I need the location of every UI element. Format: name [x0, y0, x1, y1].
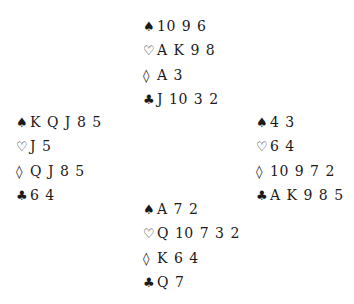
heart-icon: ♡ — [256, 135, 270, 159]
club-icon: ♣ — [143, 271, 157, 295]
west-spades: ♠K Q J 8 5 — [16, 110, 102, 134]
club-icon: ♣ — [143, 88, 157, 112]
east-clubs: ♣A K 9 8 5 — [256, 183, 344, 207]
north-hand: ♠10 9 6 ♡A K 9 8 ◊A 3 ♣J 10 3 2 — [143, 14, 219, 111]
east-hearts: ♡6 4 — [256, 134, 344, 158]
club-icon: ♣ — [256, 184, 270, 208]
east-diamonds: ◊10 9 7 2 — [256, 159, 344, 183]
north-hearts: ♡A K 9 8 — [143, 38, 219, 62]
north-diamonds: ◊A 3 — [143, 63, 219, 87]
diamond-icon: ◊ — [143, 247, 157, 271]
south-hand: ♠A 7 2 ♡Q 10 7 3 2 ◊K 6 4 ♣Q 7 — [143, 197, 240, 294]
south-clubs: ♣Q 7 — [143, 270, 240, 294]
spade-icon: ♠ — [256, 111, 270, 135]
spade-icon: ♠ — [16, 111, 30, 135]
west-diamonds: ◊Q J 8 5 — [16, 159, 102, 183]
diamond-icon: ◊ — [16, 160, 30, 184]
south-spades: ♠A 7 2 — [143, 197, 240, 221]
east-spades: ♠4 3 — [256, 110, 344, 134]
north-clubs: ♣J 10 3 2 — [143, 87, 219, 111]
heart-icon: ♡ — [143, 39, 157, 63]
spade-icon: ♠ — [143, 198, 157, 222]
north-spades: ♠10 9 6 — [143, 14, 219, 38]
diamond-icon: ◊ — [143, 64, 157, 88]
south-diamonds: ◊K 6 4 — [143, 246, 240, 270]
diamond-icon: ◊ — [256, 160, 270, 184]
heart-icon: ♡ — [143, 222, 157, 246]
west-clubs: ♣6 4 — [16, 183, 102, 207]
club-icon: ♣ — [16, 184, 30, 208]
heart-icon: ♡ — [16, 135, 30, 159]
spade-icon: ♠ — [143, 15, 157, 39]
west-hearts: ♡J 5 — [16, 134, 102, 158]
east-hand: ♠4 3 ♡6 4 ◊10 9 7 2 ♣A K 9 8 5 — [256, 110, 344, 207]
west-hand: ♠K Q J 8 5 ♡J 5 ◊Q J 8 5 ♣6 4 — [16, 110, 102, 207]
south-hearts: ♡Q 10 7 3 2 — [143, 221, 240, 245]
